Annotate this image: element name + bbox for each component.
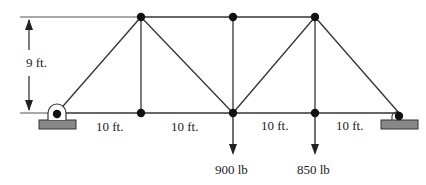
joint-top-right (311, 13, 319, 21)
panel-labels: 10 ft. 10 ft. 10 ft. 10 ft. (96, 118, 363, 134)
load-label-900: 900 lb (215, 162, 248, 177)
panel-label-1: 10 ft. (96, 119, 123, 134)
panel-label-2: 10 ft. (171, 119, 198, 134)
joint-bottom-right (311, 109, 319, 117)
right-end-diagonal (315, 17, 399, 113)
truss-diagram: 9 ft. 900 lb 850 lb (0, 0, 426, 185)
left-interior-diagonal (141, 17, 233, 113)
right-support-base (381, 120, 418, 129)
left-support-base (39, 120, 76, 129)
joint-top-center (229, 13, 237, 21)
joint-left-support (53, 110, 61, 118)
joint-right-support (395, 112, 403, 120)
left-end-diagonal (57, 17, 141, 113)
joints (53, 13, 403, 120)
right-interior-diagonal (233, 17, 315, 113)
arrow-up-icon (25, 19, 33, 30)
height-label: 9 ft. (26, 55, 47, 70)
joint-top-left (137, 13, 145, 21)
panel-label-4: 10 ft. (336, 118, 363, 133)
arrow-down-icon (25, 100, 33, 111)
height-dimension: 9 ft. (20, 17, 141, 113)
joint-bottom-center (229, 109, 237, 117)
panel-label-3: 10 ft. (261, 118, 288, 133)
arrow-down-icon (311, 144, 319, 155)
load-label-850: 850 lb (297, 162, 330, 177)
joint-bottom-left (137, 109, 145, 117)
arrow-down-icon (229, 144, 237, 155)
truss-members (57, 17, 399, 113)
